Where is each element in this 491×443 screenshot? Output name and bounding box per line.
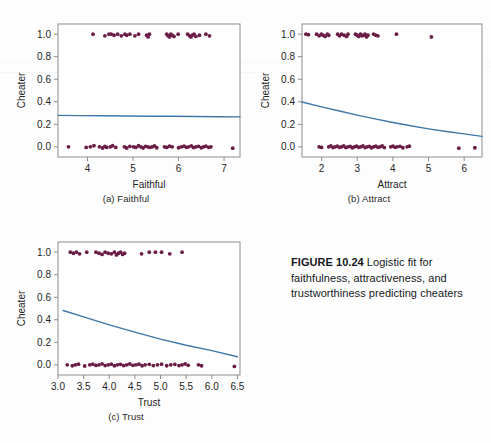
data-point-noncheater: [170, 145, 174, 149]
data-point-cheater: [103, 34, 107, 38]
subcaption-c: (c) Trust: [6, 411, 246, 422]
data-point-noncheater: [382, 146, 386, 150]
y-tick-label: 1.0: [281, 29, 295, 40]
data-point-noncheater: [114, 146, 118, 150]
data-point-noncheater: [143, 363, 147, 367]
scatter-plot-attract: 0.00.20.40.60.81.023456AttractCheater: [250, 10, 488, 190]
y-tick-label: 0.6: [37, 74, 51, 85]
data-point-cheater: [429, 35, 433, 39]
data-point-cheater: [128, 32, 132, 36]
scatter-plot-faithful: 0.00.20.40.60.81.04567FaithfulCheater: [6, 10, 246, 190]
y-tick-label: 0.0: [37, 359, 51, 370]
data-point-noncheater: [156, 363, 160, 367]
y-tick-label: 0.2: [281, 119, 295, 130]
y-tick-label: 0.6: [281, 74, 295, 85]
data-point-noncheater: [407, 144, 411, 148]
data-point-cheater: [123, 251, 127, 255]
subcaption-a: (a) Faithful: [6, 193, 246, 204]
data-point-cheater: [204, 32, 208, 36]
data-point-cheater: [176, 32, 180, 36]
x-tick-label: 3.5: [77, 381, 91, 392]
data-point-cheater: [366, 33, 370, 37]
chart-panel-faithful: 0.00.20.40.60.81.04567FaithfulCheater: [6, 10, 246, 190]
y-tick-label: 0.8: [37, 51, 51, 62]
data-point-cheater: [168, 252, 172, 256]
data-point-noncheater: [67, 145, 71, 149]
x-tick-label: 4: [85, 163, 91, 174]
x-tick-label: 6.0: [205, 381, 219, 392]
x-tick-label: 7: [221, 163, 227, 174]
data-point-noncheater: [65, 363, 69, 367]
y-tick-label: 0.0: [37, 141, 51, 152]
x-tick-label: 4: [390, 163, 396, 174]
data-point-noncheater: [151, 364, 155, 368]
y-tick-label: 0.4: [281, 96, 295, 107]
x-tick-label: 3: [354, 163, 360, 174]
data-point-noncheater: [473, 146, 477, 150]
subcaption-b: (b) Attract: [250, 193, 488, 204]
y-tick-label: 0.8: [281, 51, 295, 62]
data-point-noncheater: [232, 365, 236, 369]
data-point-cheater: [180, 250, 184, 254]
data-point-noncheater: [155, 146, 159, 150]
data-point-noncheater: [401, 146, 405, 150]
y-axis-label: Cheater: [16, 290, 27, 326]
data-point-cheater: [137, 32, 141, 36]
data-point-cheater: [395, 32, 399, 36]
y-tick-label: 0.4: [37, 96, 51, 107]
data-point-noncheater: [92, 144, 96, 148]
data-point-cheater: [346, 32, 350, 36]
data-point-cheater: [327, 33, 331, 37]
figure-caption-number: FIGURE 10.24: [291, 256, 364, 268]
y-axis-label: Cheater: [16, 72, 27, 108]
y-tick-label: 0.6: [37, 292, 51, 303]
data-point-noncheater: [457, 146, 461, 150]
data-point-noncheater: [128, 144, 132, 148]
chart-panel-attract: 0.00.20.40.60.81.023456AttractCheater: [250, 10, 488, 190]
data-point-cheater: [160, 250, 164, 254]
data-point-cheater: [172, 35, 176, 39]
data-point-noncheater: [88, 145, 92, 149]
data-point-cheater: [307, 33, 311, 37]
data-point-noncheater: [83, 364, 87, 368]
y-tick-label: 0.8: [37, 269, 51, 280]
y-tick-label: 0.0: [281, 141, 295, 152]
y-axis-label: Cheater: [260, 72, 271, 108]
data-point-cheater: [147, 250, 151, 254]
data-point-noncheater: [147, 362, 151, 366]
data-point-noncheater: [160, 362, 164, 366]
plot-frame: [58, 242, 240, 375]
y-tick-label: 0.2: [37, 119, 51, 130]
data-point-cheater: [198, 33, 202, 37]
data-point-cheater: [78, 252, 82, 256]
x-tick-label: 6: [176, 163, 182, 174]
data-point-cheater: [133, 34, 137, 38]
data-point-noncheater: [173, 362, 177, 366]
plot-frame: [58, 24, 240, 157]
data-point-cheater: [208, 34, 212, 38]
x-axis-label: Faithful: [133, 179, 166, 190]
data-point-cheater: [91, 32, 95, 36]
x-tick-label: 5: [130, 163, 136, 174]
scatter-plot-trust: 0.00.20.40.60.81.03.03.54.04.55.05.56.06…: [6, 228, 246, 408]
figure-caption: FIGURE 10.24 Logistic fit for faithfulne…: [291, 255, 481, 302]
data-point-cheater: [194, 35, 198, 39]
data-point-cheater: [119, 34, 123, 38]
data-point-noncheater: [105, 146, 109, 150]
data-point-cheater: [112, 33, 116, 37]
data-point-noncheater: [165, 364, 169, 368]
data-point-cheater: [140, 252, 144, 256]
data-point-noncheater: [186, 363, 190, 367]
y-tick-label: 1.0: [37, 29, 51, 40]
x-axis-label: Attract: [378, 179, 407, 190]
chart-panel-trust: 0.00.20.40.60.81.03.03.54.04.55.05.56.06…: [6, 228, 246, 408]
x-tick-label: 2: [319, 163, 325, 174]
data-point-cheater: [116, 32, 120, 36]
data-point-noncheater: [200, 364, 204, 368]
x-tick-label: 6: [461, 163, 467, 174]
x-tick-label: 4.0: [102, 381, 116, 392]
data-point-cheater: [154, 250, 158, 254]
data-point-cheater: [376, 34, 380, 38]
y-tick-label: 0.2: [37, 337, 51, 348]
x-tick-label: 6.5: [230, 381, 244, 392]
